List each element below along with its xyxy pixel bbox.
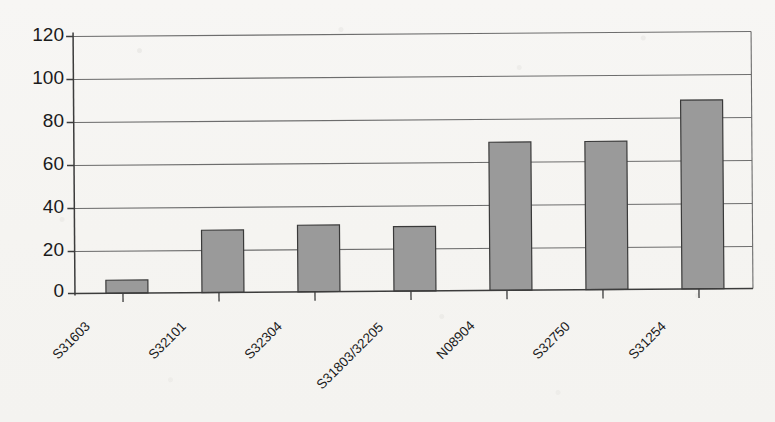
y-axis-line bbox=[73, 32, 75, 295]
y-tick-label: 0 bbox=[53, 280, 64, 301]
gridline-120 bbox=[73, 31, 751, 36]
gridlines bbox=[73, 31, 753, 251]
x-tick-label: N08904 bbox=[434, 318, 478, 362]
y-tick-label: 120 bbox=[32, 24, 64, 45]
gridline-80 bbox=[74, 117, 752, 122]
chart-canvas: 120 100 80 60 40 20 0 bbox=[0, 0, 775, 422]
x-tick-label: S32101 bbox=[146, 319, 190, 363]
x-axis-tick-labels: S31603 S32101 S32304 S31803/32205 N08904… bbox=[50, 318, 670, 392]
bar bbox=[297, 225, 339, 292]
bar bbox=[681, 100, 724, 289]
gridline-60 bbox=[74, 160, 752, 165]
y-tick-label: 40 bbox=[43, 196, 64, 217]
gridline-100 bbox=[73, 74, 751, 79]
x-tick-label: S31254 bbox=[626, 318, 670, 362]
y-axis-tick-labels: 120 100 80 60 40 20 0 bbox=[32, 24, 64, 301]
bar bbox=[202, 230, 244, 293]
x-tick-label: S32304 bbox=[242, 318, 286, 362]
bar bbox=[393, 226, 435, 291]
bar-series bbox=[105, 100, 724, 293]
plot-area bbox=[66, 27, 753, 302]
x-tick-label: S31603 bbox=[50, 319, 94, 363]
y-tick-label: 60 bbox=[43, 153, 64, 174]
y-tick-label: 80 bbox=[43, 110, 64, 131]
bar bbox=[489, 142, 532, 291]
bar bbox=[585, 141, 628, 290]
x-tick-label: S31803/32205 bbox=[314, 319, 387, 392]
x-tick-label: S32750 bbox=[530, 319, 574, 363]
y-tick-label: 20 bbox=[43, 239, 64, 260]
bar bbox=[106, 280, 148, 293]
gridline-40 bbox=[74, 203, 752, 208]
bar-chart-figure: 120 100 80 60 40 20 0 bbox=[0, 0, 775, 422]
y-tick-label: 100 bbox=[32, 67, 64, 88]
